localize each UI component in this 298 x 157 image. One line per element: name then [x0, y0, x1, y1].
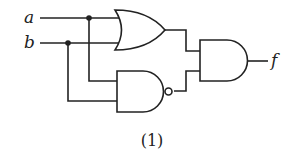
output-label-f: f [269, 50, 280, 70]
and-gate [200, 40, 247, 81]
logic-circuit-diagram: a b f (1) [0, 0, 298, 157]
nand-gate [117, 71, 163, 112]
figure-caption: (1) [141, 131, 164, 150]
wire-a-to-nand [89, 18, 117, 81]
input-label-a: a [24, 7, 34, 27]
input-label-b: b [24, 32, 35, 52]
junction-dot-b [65, 40, 71, 46]
junction-dot-a [86, 15, 92, 21]
wire-nand-to-and [174, 71, 200, 91]
nand-inversion-bubble [165, 88, 172, 95]
or-gate [115, 10, 165, 50]
wire-or-to-and [165, 30, 200, 51]
wire-b-to-nand [68, 43, 117, 101]
